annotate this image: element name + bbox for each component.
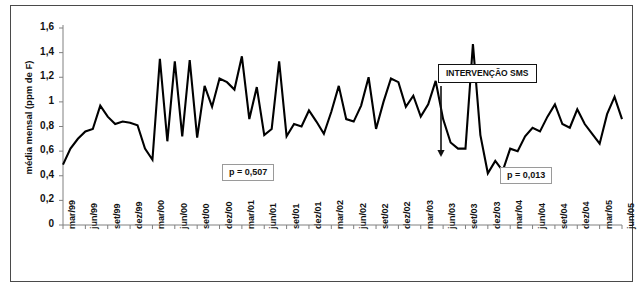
plot-area: [0, 0, 643, 291]
intervention-arrow-head: [437, 150, 444, 157]
p-value-post-box: p = 0,013: [500, 167, 552, 184]
data-series-line: [63, 44, 622, 173]
chart-figure: média mensal (ppm de F) 00,20,40,60,811,…: [0, 0, 643, 291]
p-value-pre-box: p = 0,507: [222, 164, 274, 181]
intervention-annotation-box: INTERVENÇÃO SMS: [438, 64, 537, 83]
